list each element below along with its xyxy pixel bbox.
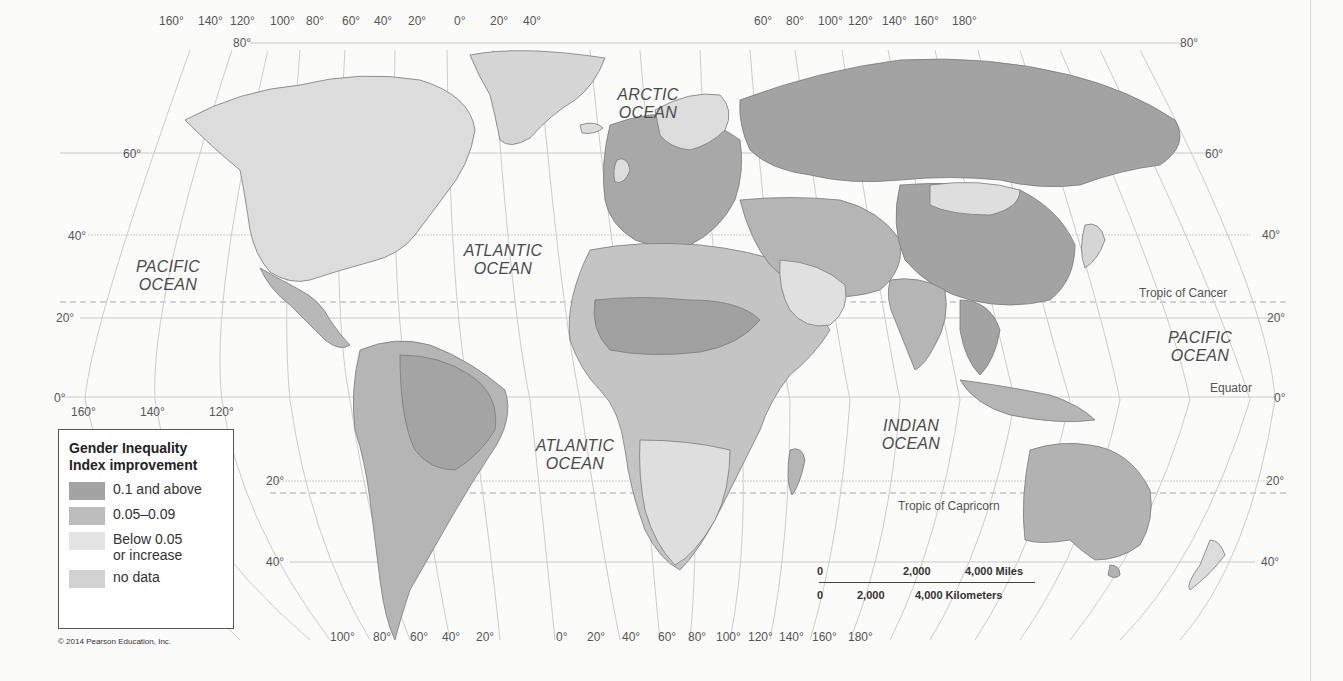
lon-label: 80° xyxy=(373,630,391,644)
legend-item-low: Below 0.05 or increase xyxy=(69,531,223,563)
india xyxy=(888,279,946,370)
ocean-label-indian: INDIANOCEAN xyxy=(866,417,956,453)
legend-swatch xyxy=(69,570,105,588)
scale-km-0: 0 xyxy=(817,589,823,601)
lat-label: 20° xyxy=(1266,474,1284,488)
lon-label: 0° xyxy=(454,14,465,28)
lon-label: 40° xyxy=(622,630,640,644)
lat-label: 40° xyxy=(1262,228,1280,242)
lon-label: 80° xyxy=(786,14,804,28)
lon-label: 180° xyxy=(848,630,873,644)
legend-swatch xyxy=(69,482,105,500)
lon-label: 40° xyxy=(374,14,392,28)
lon-label: 40° xyxy=(442,630,460,644)
lat-label: 40° xyxy=(266,555,284,569)
lat-label: 0° xyxy=(1274,391,1285,405)
lat-label: 20° xyxy=(1267,311,1285,325)
lon-label: 60° xyxy=(342,14,360,28)
lon-label: 100° xyxy=(330,630,355,644)
scale-bar: 0 2,000 4,000 Miles 0 2,000 4,000 Kilome… xyxy=(815,563,1035,608)
lon-label: 60° xyxy=(658,630,676,644)
lon-label: 160° xyxy=(914,14,939,28)
lon-label: 60° xyxy=(410,630,428,644)
lon-label: 80° xyxy=(306,14,324,28)
lon-label: 20° xyxy=(408,14,426,28)
lon-label: 120° xyxy=(209,405,234,419)
equator-label: Equator xyxy=(1210,381,1252,395)
lon-label: 140° xyxy=(140,405,165,419)
world-map: 160° 140° 120° 100° 80° 60° 40° 20° 0° 2… xyxy=(0,0,1343,681)
madagascar xyxy=(788,449,805,495)
lat-label: 80° xyxy=(1180,36,1198,50)
southern-africa xyxy=(640,440,730,565)
lon-label: 20° xyxy=(490,14,508,28)
tropic-of-capricorn-label: Tropic of Capricorn xyxy=(898,499,1000,513)
indonesia xyxy=(960,380,1095,422)
lon-label: 0° xyxy=(556,630,567,644)
lon-label: 80° xyxy=(688,630,706,644)
legend: Gender Inequality Index improvement 0.1 … xyxy=(58,429,234,629)
ocean-label-pacific-east: PACIFICOCEAN xyxy=(118,258,218,294)
tasmania xyxy=(1108,565,1120,578)
lon-label: 180° xyxy=(952,14,977,28)
scale-bar-line xyxy=(819,582,1035,583)
legend-swatch xyxy=(69,532,105,550)
page-edge xyxy=(1310,0,1311,681)
lon-label: 140° xyxy=(198,14,223,28)
lat-label: 20° xyxy=(56,311,74,325)
north-america xyxy=(185,76,475,281)
legend-title: Gender Inequality Index improvement xyxy=(69,440,223,474)
lat-label: 20° xyxy=(266,474,284,488)
ocean-label-arctic: ARCTICOCEAN xyxy=(608,86,688,122)
legend-item-high: 0.1 and above xyxy=(69,481,223,500)
scale-miles-4000: 4,000 Miles xyxy=(965,565,1023,577)
lat-label: 60° xyxy=(123,147,141,161)
lon-label: 100° xyxy=(818,14,843,28)
tropic-of-cancer-label: Tropic of Cancer xyxy=(1139,286,1227,300)
ocean-label-pacific-west: PACIFICOCEAN xyxy=(1150,329,1250,365)
lon-label: 140° xyxy=(779,630,804,644)
scale-miles-2000: 2,000 xyxy=(903,565,931,577)
iceland xyxy=(580,123,603,133)
lon-label: 160° xyxy=(71,405,96,419)
lon-label: 120° xyxy=(230,14,255,28)
lon-label: 120° xyxy=(748,630,773,644)
ocean-label-atlantic-north: ATLANTICOCEAN xyxy=(448,242,558,278)
lon-label: 160° xyxy=(159,14,184,28)
scale-km-4000: 4,000 Kilometers xyxy=(915,589,1002,601)
lon-label: 40° xyxy=(523,14,541,28)
lon-label: 20° xyxy=(587,630,605,644)
lon-label: 160° xyxy=(812,630,837,644)
lon-label: 100° xyxy=(270,14,295,28)
land-masses xyxy=(185,51,1225,640)
lon-label: 100° xyxy=(716,630,741,644)
scale-miles-0: 0 xyxy=(817,565,823,577)
lon-label: 60° xyxy=(754,14,772,28)
lat-label: 80° xyxy=(233,36,251,50)
lat-label: 0° xyxy=(54,391,65,405)
scale-km-2000: 2,000 xyxy=(857,589,885,601)
lat-label: 40° xyxy=(68,229,86,243)
legend-item-mid: 0.05–0.09 xyxy=(69,506,223,525)
legend-swatch xyxy=(69,507,105,525)
japan xyxy=(1082,224,1106,268)
australia xyxy=(1023,443,1151,560)
copyright: © 2014 Pearson Education, Inc. xyxy=(58,637,171,646)
lon-label: 20° xyxy=(476,630,494,644)
ocean-label-atlantic-south: ATLANTICOCEAN xyxy=(520,437,630,473)
lat-label: 60° xyxy=(1205,147,1223,161)
lon-label: 120° xyxy=(848,14,873,28)
legend-item-no-data: no data xyxy=(69,569,223,588)
lat-label: 40° xyxy=(1261,555,1279,569)
lon-label: 140° xyxy=(882,14,907,28)
